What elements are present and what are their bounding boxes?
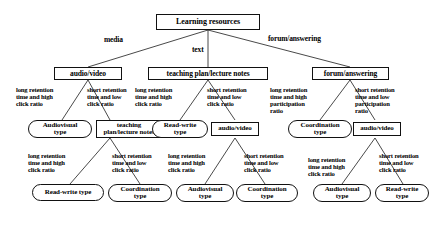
edge-label-short-retention-click-2: short retention time and low click ratio: [87, 86, 127, 107]
node-audiovisual-type-l4-e[interactable]: Audiovisual type: [313, 184, 371, 202]
node-audio-video-l3-mid[interactable]: audio/video: [211, 122, 259, 136]
node-read-write-type-l4-f[interactable]: Read-write type: [375, 184, 429, 202]
edge-tp-to-readwrite: [180, 80, 208, 120]
edge-label-media: media: [104, 36, 123, 44]
edge-av3r-to-audiovisual: [342, 138, 375, 184]
edge-label-short-retention-click-8: short retention time and low click ratio: [112, 152, 152, 173]
node-audiovisual-type-l3[interactable]: Audiovisual type: [28, 120, 92, 138]
edge-label-short-retention-click-12: short retention time and low click ratio: [379, 152, 419, 173]
node-read-write-type-l4-a[interactable]: Read-write type: [32, 184, 104, 201]
diagram-canvas: Learning resources audio/video teaching …: [0, 0, 437, 228]
edge-label-text: text: [192, 46, 203, 54]
edge-label-forum-answering: forum/answering: [268, 35, 321, 43]
edge-label-long-retention-click-7: long retention time and high click ratio: [28, 152, 65, 173]
node-read-write-type-l3[interactable]: Read-write type: [152, 120, 208, 138]
edge-label-long-retention-click-1: long retention time and high click ratio: [16, 86, 53, 107]
edge-label-short-retention-click-4: short retention time and low click ratio: [207, 86, 247, 107]
node-coordination-type-l4-b[interactable]: Coordination type: [108, 184, 172, 202]
node-coordination-type-l4-d[interactable]: Coordination type: [236, 184, 298, 202]
node-forum-answering-l2[interactable]: forum/answering: [312, 67, 389, 80]
node-audiovisual-type-l4-c[interactable]: Audiovisual type: [176, 184, 234, 202]
node-audio-video-l2[interactable]: audio/video: [54, 67, 122, 80]
edge-tp3-to-readwrite: [70, 138, 110, 184]
node-learning-resources[interactable]: Learning resources: [156, 14, 260, 30]
edge-av-to-audiovisual: [62, 80, 88, 120]
node-coordination-type-l3[interactable]: Coordination type: [288, 120, 352, 138]
edge-label-short-retention-participation-6: short retention time and low participati…: [355, 86, 395, 114]
edge-forum-to-coordination: [320, 80, 350, 120]
edge-label-short-retention-click-10: short retention time and low click ratio: [244, 152, 284, 173]
node-audio-video-l3-right[interactable]: audio/video: [353, 122, 401, 136]
edge-label-long-retention-click-11: long retention time and high click ratio: [308, 156, 345, 177]
edge-label-long-retention-participation-5: long retention time and high participati…: [270, 86, 307, 114]
node-teaching-plan-l2[interactable]: teaching plan/lecture notes: [148, 67, 268, 80]
edge-av3-to-audiovisual: [205, 138, 235, 184]
edge-label-long-retention-click-9: long retention time and high click ratio: [168, 152, 205, 173]
edge-label-long-retention-click-3: long retention time and high click ratio: [135, 86, 172, 107]
